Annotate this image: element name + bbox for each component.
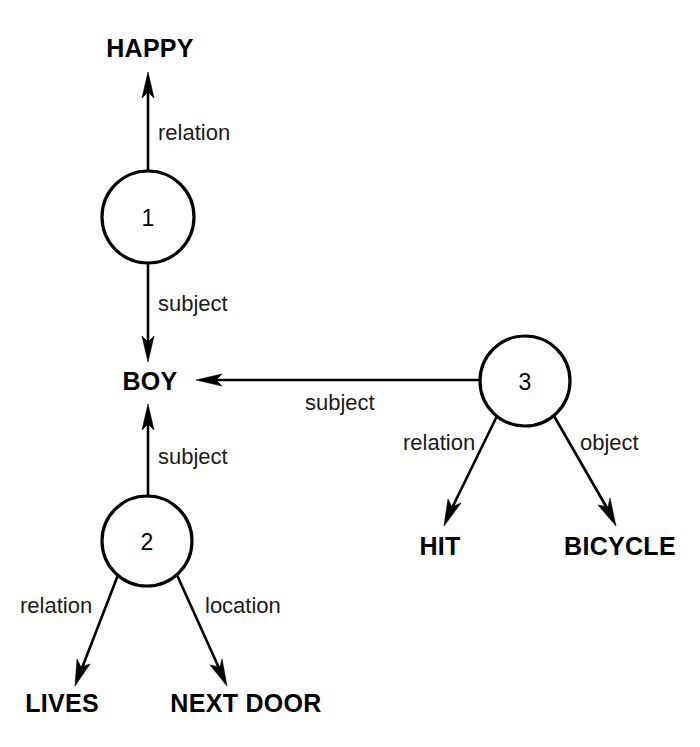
edge-label-relation-happy: relation bbox=[158, 120, 230, 145]
concept-happy: HAPPY bbox=[106, 34, 194, 62]
node-number-label: 1 bbox=[142, 205, 155, 231]
relation-node-1[interactable]: 1 bbox=[102, 171, 194, 263]
edge-line bbox=[177, 575, 219, 668]
edge-node2-nextdoor bbox=[177, 575, 227, 686]
edge-node2-boy bbox=[142, 404, 154, 496]
concept-bicycle: BICYCLE bbox=[564, 532, 676, 560]
arrowhead-downleft bbox=[444, 499, 461, 526]
diagram-canvas: 1 2 3 relation subject subject relation … bbox=[0, 0, 700, 747]
edge-label-subject-node1-boy: subject bbox=[158, 291, 228, 316]
relation-node-3[interactable]: 3 bbox=[480, 336, 570, 426]
concept-boy: BOY bbox=[122, 367, 177, 395]
concept-hit: HIT bbox=[419, 532, 460, 560]
edge-node1-happy bbox=[142, 72, 154, 171]
semantic-network-diagram: 1 2 3 relation subject subject relation … bbox=[0, 0, 700, 747]
arrowhead-downright bbox=[210, 659, 227, 686]
concept-lives: LIVES bbox=[25, 689, 99, 717]
node-number-label: 2 bbox=[141, 529, 154, 555]
edge-node1-boy bbox=[142, 263, 154, 362]
edge-node2-lives bbox=[75, 575, 118, 686]
node-number-label: 3 bbox=[519, 369, 532, 395]
edge-label-subject-node3-boy: subject bbox=[305, 390, 375, 415]
edge-node3-boy bbox=[196, 374, 480, 386]
edge-label-location-nextdoor: location bbox=[205, 593, 281, 618]
edge-label-relation-lives: relation bbox=[20, 593, 92, 618]
arrowhead-downleft bbox=[75, 659, 90, 686]
relation-node-2[interactable]: 2 bbox=[102, 496, 192, 586]
concept-next-door: NEXT DOOR bbox=[170, 689, 321, 717]
edge-label-object-bicycle: object bbox=[580, 430, 639, 455]
edge-label-relation-hit: relation bbox=[403, 430, 475, 455]
edge-label-subject-node2-boy: subject bbox=[158, 444, 228, 469]
arrowhead-downright bbox=[598, 498, 616, 526]
edge-line bbox=[82, 575, 118, 668]
